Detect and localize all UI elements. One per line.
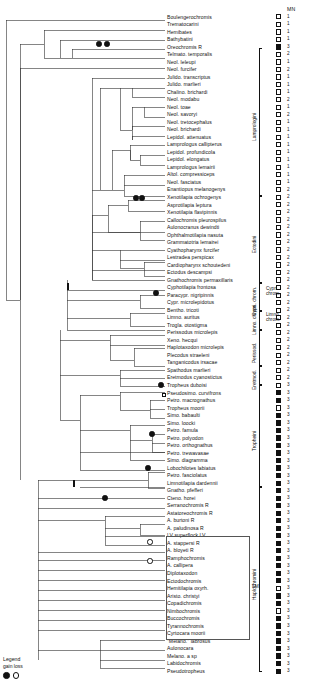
mn-state-box bbox=[276, 601, 281, 606]
mn-state-code: 2 bbox=[287, 202, 290, 208]
mn-state-box bbox=[276, 638, 281, 643]
mn-state-code: 3 bbox=[287, 473, 290, 479]
mn-state-code: 3 bbox=[287, 638, 290, 644]
mn-state-code: 1 bbox=[287, 142, 290, 148]
mn-state-box bbox=[276, 330, 281, 335]
mn-state-box bbox=[276, 22, 281, 27]
mn-state-box bbox=[276, 481, 281, 486]
node-bar-marker bbox=[67, 283, 69, 290]
mn-state-box bbox=[276, 187, 281, 192]
mn-state-box bbox=[276, 526, 281, 531]
mn-state-code: 2 bbox=[287, 217, 290, 223]
mn-state-code: 3 bbox=[287, 631, 290, 637]
mn-state-code: 1 bbox=[287, 127, 290, 133]
mn-state-box bbox=[276, 255, 281, 260]
mn-state-code: 3 bbox=[287, 495, 290, 501]
mn-state-code: 2 bbox=[287, 232, 290, 238]
mn-state-code: 1 bbox=[287, 21, 290, 27]
gain-node-marker bbox=[102, 495, 107, 500]
mn-state-box bbox=[276, 135, 281, 140]
mn-state-code: 2 bbox=[287, 187, 290, 193]
group-bracket-label: Ectodini bbox=[252, 201, 257, 288]
group-bracket bbox=[259, 385, 262, 487]
mn-state-code: 3 bbox=[287, 382, 290, 388]
mn-state-box bbox=[276, 533, 281, 538]
mn-state-code: 2 bbox=[287, 330, 290, 336]
mn-state-code: 2 bbox=[287, 277, 290, 283]
mn-state-code: 3 bbox=[287, 646, 290, 652]
mn-state-box bbox=[276, 563, 281, 568]
mn-state-code: 2 bbox=[287, 337, 290, 343]
mn-state-code: 2 bbox=[287, 209, 290, 215]
group-bracket bbox=[259, 487, 262, 672]
mn-state-box bbox=[276, 450, 281, 455]
mn-state-box bbox=[276, 360, 281, 365]
mn-state-box bbox=[276, 52, 281, 57]
mn-state-code: 1 bbox=[287, 157, 290, 163]
mn-state-box bbox=[276, 578, 281, 583]
mn-state-box bbox=[276, 488, 281, 493]
legend-title: Legend bbox=[3, 656, 23, 663]
mn-state-code: 2 bbox=[287, 239, 290, 245]
mn-state-box bbox=[276, 465, 281, 470]
mn-state-box bbox=[276, 180, 281, 185]
mn-state-code: 2 bbox=[287, 97, 290, 103]
mn-state-box bbox=[276, 120, 281, 125]
mn-state-code: 1 bbox=[287, 59, 290, 65]
mn-state-code: 2 bbox=[287, 224, 290, 230]
mn-state-box bbox=[276, 503, 281, 508]
mn-state-code: 2 bbox=[287, 285, 290, 291]
mn-state-code: 2 bbox=[287, 322, 290, 328]
mn-state-box bbox=[276, 112, 281, 117]
mn-state-box bbox=[276, 44, 281, 49]
mn-state-box bbox=[276, 458, 281, 463]
mn-state-box bbox=[276, 59, 281, 64]
mn-state-code: 3 bbox=[287, 653, 290, 659]
mn-state-code: 2 bbox=[287, 307, 290, 313]
mn-state-code: 3 bbox=[287, 615, 290, 621]
mn-state-code: 3 bbox=[287, 390, 290, 396]
mn-state-box bbox=[276, 157, 281, 162]
mn-state-box bbox=[276, 383, 281, 388]
gain-node-marker bbox=[139, 195, 144, 200]
mn-state-code: 3 bbox=[287, 668, 290, 674]
group-bracket bbox=[259, 48, 262, 196]
gain-node-marker bbox=[149, 431, 154, 436]
mn-state-code: 3 bbox=[287, 427, 290, 433]
mn-state-box bbox=[276, 217, 281, 222]
mn-state-code: 3 bbox=[287, 412, 290, 418]
group-bracket-label: Perissod. bbox=[252, 335, 257, 371]
mn-state-box bbox=[276, 398, 281, 403]
mn-state-code: 3 bbox=[287, 465, 290, 471]
loss-node-marker bbox=[147, 558, 152, 563]
mn-state-box bbox=[276, 127, 281, 132]
group-bracket bbox=[259, 366, 262, 385]
mn-state-box bbox=[276, 420, 281, 425]
mn-state-code: 3 bbox=[287, 503, 290, 509]
mn-state-box bbox=[276, 390, 281, 395]
mn-state-code: 3 bbox=[287, 555, 290, 561]
mn-state-box bbox=[276, 270, 281, 275]
mn-state-code: 2 bbox=[287, 360, 290, 366]
gain-node-marker bbox=[145, 465, 150, 470]
mn-state-box bbox=[276, 405, 281, 410]
mn-state-box bbox=[276, 511, 281, 516]
mn-state-code: 3 bbox=[287, 397, 290, 403]
mn-state-box bbox=[276, 232, 281, 237]
mn-state-box bbox=[276, 172, 281, 177]
mn-state-code: 2 bbox=[287, 194, 290, 200]
mn-state-code: 1 bbox=[287, 14, 290, 20]
group-bracket-label: Limno. chrom. bbox=[252, 316, 257, 335]
mn-state-box bbox=[276, 586, 281, 591]
mn-column-header: MN bbox=[287, 6, 296, 12]
mn-state-code: 2 bbox=[287, 67, 290, 73]
mn-state-code: 3 bbox=[287, 548, 290, 554]
mn-state-box bbox=[276, 473, 281, 478]
gain-node-marker bbox=[153, 290, 158, 295]
mn-state-code: 1 bbox=[287, 36, 290, 42]
mn-state-box bbox=[276, 661, 281, 666]
mn-state-box bbox=[276, 435, 281, 440]
mn-state-code: 2 bbox=[287, 345, 290, 351]
mn-state-box bbox=[276, 518, 281, 523]
gain-node-marker bbox=[104, 41, 109, 46]
